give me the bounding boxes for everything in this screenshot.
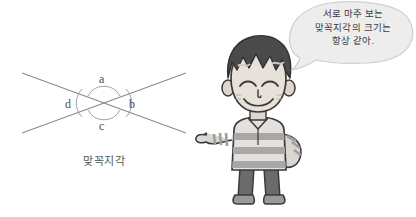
speech-bubble-text: 서로 마주 보는 맞꼭지각의 크기는 항상 같아. — [296, 7, 410, 48]
bubble-line-2: 맞꼭지각의 크기는 — [296, 21, 410, 35]
bubble-line-1: 서로 마주 보는 — [296, 7, 410, 21]
bubble-line-3: 항상 같아. — [296, 34, 410, 48]
illustration-stage: a b c d 맞꼭지각 — [0, 0, 416, 217]
